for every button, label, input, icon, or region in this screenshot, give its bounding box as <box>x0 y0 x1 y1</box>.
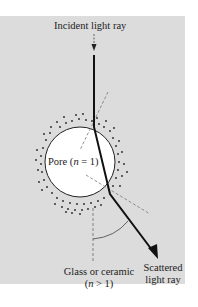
scattered-light-ray-label: Scattered light ray <box>140 262 186 286</box>
incident-arrowhead-icon <box>92 44 97 51</box>
exit-normal-line <box>86 175 150 214</box>
incident-light-ray-label: Incident light ray <box>54 20 126 32</box>
light-scattering-diagram <box>0 0 198 307</box>
glass-ceramic-label: Glass or ceramic (n > 1) <box>57 266 141 290</box>
pore-label: Pore (n = 1) <box>48 156 99 168</box>
scattering-angle-arc <box>93 221 128 239</box>
